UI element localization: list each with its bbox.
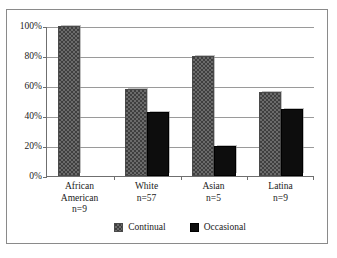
x-axis-boundary-tick bbox=[313, 176, 314, 180]
x-axis-category-label-line: White bbox=[113, 181, 180, 193]
bars-layer bbox=[47, 27, 314, 176]
legend-swatch-icon bbox=[190, 223, 199, 232]
legend-swatch-icon bbox=[114, 223, 123, 232]
bar-group bbox=[247, 27, 314, 176]
x-axis-category-label: Asiann=5 bbox=[180, 181, 247, 216]
plot-area bbox=[46, 27, 314, 177]
y-axis-tick-label: 80% bbox=[0, 52, 42, 62]
x-axis-boundary-tick bbox=[247, 176, 248, 180]
x-axis-labels: AfricanAmericann=9Whiten=57Asiann=5Latin… bbox=[46, 181, 314, 216]
bar-occasional[interactable] bbox=[147, 112, 169, 177]
figure-root: 100%80%60%40%20%0% AfricanAmericann=9Whi… bbox=[0, 0, 337, 258]
x-axis-category-label: Whiten=57 bbox=[113, 181, 180, 216]
y-axis-tick-mark bbox=[43, 147, 47, 148]
x-axis-category-label-line: n=9 bbox=[247, 193, 314, 205]
legend-label: Occasional bbox=[204, 222, 246, 232]
x-axis-category-label-line: American bbox=[46, 193, 113, 205]
bar-continual[interactable] bbox=[192, 56, 214, 176]
y-axis-tick-label: 60% bbox=[0, 82, 42, 92]
x-axis-category-label: AfricanAmericann=9 bbox=[46, 181, 113, 216]
x-axis-category-label-line: Asian bbox=[180, 181, 247, 193]
x-axis-category-label-line: Latina bbox=[247, 181, 314, 193]
x-axis-category-label-line: n=57 bbox=[113, 193, 180, 205]
y-axis-tick-mark bbox=[43, 87, 47, 88]
x-axis-boundary-tick bbox=[114, 176, 115, 180]
bar-group bbox=[114, 27, 181, 176]
x-axis-category-label: Latinan=9 bbox=[247, 181, 314, 216]
chart-legend: ContinualOccasional bbox=[46, 222, 314, 232]
bar-continual[interactable] bbox=[58, 26, 80, 176]
y-axis-tick-label: 0% bbox=[0, 172, 42, 182]
x-axis-boundary-tick bbox=[181, 176, 182, 180]
y-axis-tick-label: 20% bbox=[0, 142, 42, 152]
bar-continual[interactable] bbox=[125, 89, 147, 176]
legend-label: Continual bbox=[128, 222, 165, 232]
y-axis-tick-mark bbox=[43, 27, 47, 28]
bar-group bbox=[47, 27, 114, 176]
legend-item[interactable]: Continual bbox=[114, 222, 165, 232]
legend-item[interactable]: Occasional bbox=[190, 222, 246, 232]
bar-continual[interactable] bbox=[259, 92, 281, 176]
x-axis-category-label-line: n=5 bbox=[180, 193, 247, 205]
x-axis-category-label-line: African bbox=[46, 181, 113, 193]
bar-group bbox=[181, 27, 248, 176]
y-axis-tick-mark bbox=[43, 117, 47, 118]
y-axis-tick-label: 40% bbox=[0, 112, 42, 122]
bar-occasional[interactable] bbox=[214, 146, 236, 176]
y-axis-tick-mark bbox=[43, 177, 47, 178]
bar-occasional[interactable] bbox=[281, 109, 303, 176]
x-axis-category-label-line: n=9 bbox=[46, 204, 113, 216]
y-axis-tick-mark bbox=[43, 57, 47, 58]
y-axis-tick-label: 100% bbox=[0, 22, 42, 32]
